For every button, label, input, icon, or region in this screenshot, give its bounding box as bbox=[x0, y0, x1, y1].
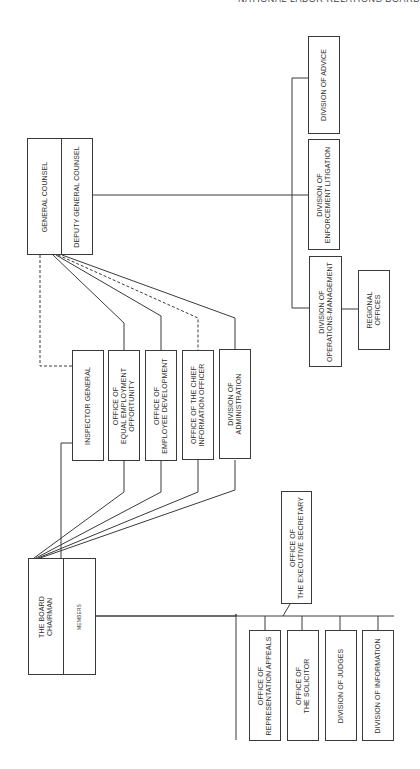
board-division-judges[interactable]: DIVISION OF JUDGES bbox=[325, 630, 357, 741]
staff-office-employee-development[interactable]: OFFICE OF EMPLOYEE DEVELOPMENT bbox=[145, 350, 177, 461]
gc-division-operations-management[interactable]: DIVISION OF OPERATIONS-MANAGEMENT bbox=[309, 256, 342, 367]
staff-office-label: DIVISION OF ADMINISTRATION bbox=[227, 374, 243, 435]
board-division-representation-appeals[interactable]: OFFICE OF REPRESENTATION APPEALS bbox=[249, 630, 281, 741]
staff-office-eeo[interactable]: OFFICE OF EQUAL EMPLOYMENT OPPORTUNITY bbox=[108, 350, 140, 461]
board-division-solicitor[interactable]: OFFICE OF THE SOLICITOR bbox=[287, 630, 319, 741]
gc-division-label: DIVISION OF ADVICE bbox=[320, 49, 328, 121]
staff-office-administration[interactable]: DIVISION OF ADMINISTRATION bbox=[219, 349, 251, 459]
board-division-information[interactable]: DIVISION OF INFORMATION bbox=[362, 630, 394, 741]
regional-offices-label: REGIONAL OFFICES bbox=[366, 292, 382, 329]
general-counsel-label: GENERAL COUNSEL bbox=[41, 161, 49, 231]
executive-secretary-label: OFFICE OF THE EXECUTIVE SECRETARY bbox=[289, 496, 305, 598]
board-chairman-label: THE BOARD CHAIRMAN bbox=[38, 596, 54, 638]
board-division-label: OFFICE OF THE SOLICITOR bbox=[295, 658, 311, 713]
gc-division-advice[interactable]: DIVISION OF ADVICE bbox=[308, 36, 340, 134]
board-division-label: DIVISION OF JUDGES bbox=[337, 648, 345, 723]
gc-division-label: DIVISION OF ENFORCEMENT LITIGATION bbox=[316, 146, 332, 242]
staff-office-label: OFFICE OF THE CHIEF INFORMATION OFFICER bbox=[190, 363, 206, 446]
staff-office-inspector-general[interactable]: INSPECTOR GENERAL bbox=[72, 350, 104, 461]
board-box[interactable]: THE BOARD CHAIRMAN MEMBERS bbox=[28, 558, 96, 675]
staff-office-cio[interactable]: OFFICE OF THE CHIEF INFORMATION OFFICER bbox=[182, 350, 214, 460]
staff-office-label: OFFICE OF EQUAL EMPLOYMENT OPPORTUNITY bbox=[112, 367, 136, 443]
board-division-label: DIVISION OF INFORMATION bbox=[374, 638, 382, 733]
executive-secretary-box[interactable]: OFFICE OF THE EXECUTIVE SECRETARY bbox=[281, 491, 312, 604]
gc-division-label: DIVISION OF OPERATIONS-MANAGEMENT bbox=[318, 262, 334, 362]
regional-offices-box[interactable]: REGIONAL OFFICES bbox=[358, 270, 390, 350]
gc-division-enforcement-litigation[interactable]: DIVISION OF ENFORCEMENT LITIGATION bbox=[308, 139, 340, 250]
board-division-label: OFFICE OF REPRESENTATION APPEALS bbox=[257, 636, 273, 735]
staff-office-label: OFFICE OF EMPLOYEE DEVELOPMENT bbox=[153, 358, 169, 453]
deputy-general-counsel-label: DEPUTY GENERAL COUNSEL bbox=[73, 146, 81, 247]
staff-office-label: INSPECTOR GENERAL bbox=[84, 367, 92, 445]
general-counsel-box[interactable]: GENERAL COUNSEL DEPUTY GENERAL COUNSEL bbox=[27, 138, 93, 255]
board-members-label: MEMBERS bbox=[76, 604, 82, 630]
